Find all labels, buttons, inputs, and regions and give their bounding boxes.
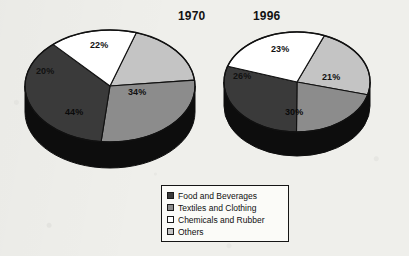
slice-percent-label: 20% — [36, 66, 54, 76]
legend-label-food: Food and Beverages — [178, 191, 257, 201]
chart-title-1996: 1996 — [253, 9, 281, 23]
slice-percent-label: 23% — [271, 44, 289, 54]
pie-chart-1970 — [21, 26, 199, 172]
slice-percent-label: 44% — [65, 107, 83, 117]
chart-title-1970: 1970 — [178, 9, 206, 23]
legend-swatch-textiles — [167, 204, 174, 211]
legend-box: Food and BeveragesTextiles and ClothingC… — [161, 185, 289, 242]
legend-swatch-chemicals — [167, 216, 174, 223]
slice-percent-label: 34% — [128, 87, 146, 97]
legend-item-textiles[interactable]: Textiles and Clothing — [167, 202, 283, 213]
chart-canvas: 1970 1996 22%34%44%20%23%21%30%26% Food … — [0, 0, 409, 256]
slice-percent-label: 30% — [285, 107, 303, 117]
pie-chart-1996 — [220, 28, 374, 160]
legend-swatch-food — [167, 192, 174, 199]
slice-percent-label: 22% — [90, 40, 108, 50]
slice-percent-label: 26% — [233, 71, 251, 81]
legend-label-chemicals: Chemicals and Rubber — [178, 215, 264, 225]
legend-swatch-others — [167, 228, 174, 235]
slice-percent-label: 21% — [322, 72, 340, 82]
legend-item-others[interactable]: Others — [167, 226, 283, 237]
legend-label-others: Others — [178, 227, 204, 237]
legend-label-textiles: Textiles and Clothing — [178, 203, 256, 213]
legend-item-chemicals[interactable]: Chemicals and Rubber — [167, 214, 283, 225]
legend-item-food[interactable]: Food and Beverages — [167, 190, 283, 201]
